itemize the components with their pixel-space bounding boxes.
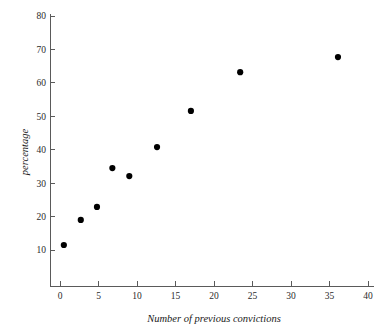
x-axis-title: Number of previous convictions [146, 313, 280, 324]
y-tick-label: 70 [37, 45, 47, 55]
y-tick-label: 30 [37, 179, 47, 189]
x-tick-label: 25 [248, 291, 258, 301]
data-point [94, 204, 100, 210]
y-axis-ticks: 1020304050607080 [37, 11, 56, 255]
y-tick-label: 20 [37, 212, 47, 222]
data-point [78, 217, 84, 223]
x-tick-label: 15 [171, 291, 181, 301]
x-tick-label: 10 [132, 291, 142, 301]
data-point [109, 165, 115, 171]
data-point [335, 54, 341, 60]
axes [50, 14, 374, 286]
x-axis-ticks: 0510152025303540 [58, 281, 373, 301]
y-tick-label: 10 [37, 245, 47, 255]
x-tick-label: 5 [96, 291, 101, 301]
data-points [61, 54, 341, 248]
plot-canvas: 1020304050607080 0510152025303540 Number… [0, 0, 388, 335]
y-axis-title: percentage [19, 129, 30, 177]
data-point [126, 173, 132, 179]
scatter-plot-figure: 1020304050607080 0510152025303540 Number… [0, 0, 388, 335]
x-tick-label: 35 [325, 291, 335, 301]
y-tick-label: 60 [37, 78, 47, 88]
data-point [237, 69, 243, 75]
x-tick-label: 20 [209, 291, 219, 301]
x-tick-label: 0 [58, 291, 63, 301]
y-tick-label: 40 [37, 145, 47, 155]
y-tick-label: 50 [37, 112, 47, 122]
x-tick-label: 40 [363, 291, 373, 301]
x-tick-label: 30 [286, 291, 296, 301]
data-point [188, 108, 194, 114]
data-point [61, 242, 67, 248]
data-point [154, 144, 160, 150]
y-tick-label: 80 [37, 11, 47, 21]
